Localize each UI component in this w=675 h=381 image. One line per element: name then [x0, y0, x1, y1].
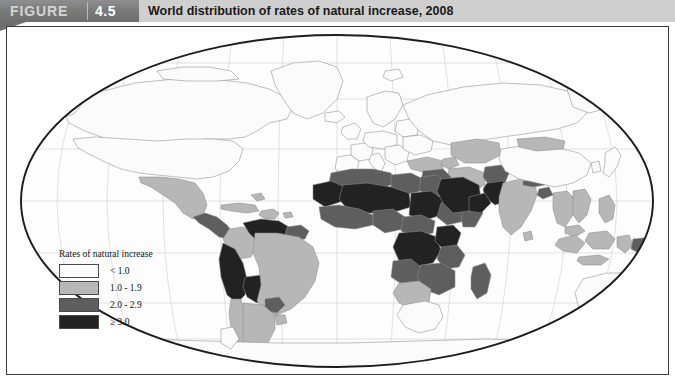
- map-canvas: Rates of natural increase < 1.0 1.0 - 1.…: [7, 27, 668, 374]
- legend-swatch-2to29: [59, 298, 99, 312]
- legend-title: Rates of natural increase: [59, 249, 199, 259]
- map-legend: Rates of natural increase < 1.0 1.0 - 1.…: [59, 249, 199, 331]
- legend-swatch-1to19: [59, 281, 99, 295]
- legend-label-2to29: 2.0 - 2.9: [110, 300, 142, 310]
- map-frame: Rates of natural increase < 1.0 1.0 - 1.…: [6, 26, 669, 375]
- legend-label-lt1: < 1.0: [110, 266, 130, 276]
- legend-row: < 1.0: [59, 263, 199, 279]
- legend-swatch-ge3: [59, 315, 99, 329]
- region-korea: [591, 161, 601, 173]
- region-uruguay: [275, 315, 287, 325]
- region-new-zealand: [661, 313, 668, 333]
- legend-label-1to19: 1.0 - 1.9: [110, 283, 142, 293]
- legend-label-ge3: ≥ 3.0: [110, 317, 129, 327]
- region-sri-lanka: [523, 231, 533, 241]
- figure-page: FIGURE 4.5 World distribution of rates o…: [0, 0, 675, 381]
- figure-title: World distribution of rates of natural i…: [148, 0, 453, 22]
- legend-row: ≥ 3.0: [59, 314, 199, 330]
- figure-label: FIGURE: [10, 0, 68, 22]
- region-tasmania: [623, 327, 637, 337]
- region-australia: [575, 273, 657, 327]
- banner-divider: [87, 2, 88, 20]
- region-caribbean-pr: [283, 212, 293, 218]
- legend-swatch-lt1: [59, 264, 99, 278]
- figure-number: 4.5: [95, 0, 116, 22]
- legend-row: 1.0 - 1.9: [59, 280, 199, 296]
- legend-row: 2.0 - 2.9: [59, 297, 199, 313]
- figure-banner: FIGURE 4.5 World distribution of rates o…: [0, 0, 675, 22]
